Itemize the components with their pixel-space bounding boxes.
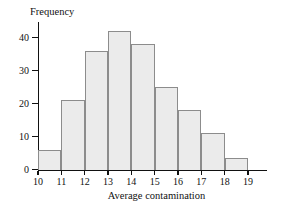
x-tick-label-11: 11 [49, 176, 73, 187]
x-tick-label-18: 18 [213, 176, 237, 187]
histogram-figure: Frequency 010203040 10111213141516171819… [0, 0, 297, 212]
x-axis-label-text: Average contamination [108, 190, 205, 201]
y-tick-label-10: 10 [0, 132, 29, 142]
x-tick-label-19: 19 [236, 176, 260, 187]
x-tick-label-15: 15 [143, 176, 167, 187]
x-tick-12 [84, 171, 85, 175]
y-tick-10 [32, 136, 38, 137]
x-tick-label-17: 17 [189, 176, 213, 187]
bar-15-16 [155, 87, 178, 170]
x-tick-label-10: 10 [26, 176, 50, 187]
x-tick-18 [224, 171, 225, 175]
bar-11-12 [61, 100, 84, 169]
bar-17-18 [201, 133, 224, 169]
y-tick-label-0: 0 [0, 165, 29, 175]
x-tick-label-16: 16 [166, 176, 190, 187]
x-tick-10 [37, 171, 38, 175]
y-tick-20 [32, 103, 38, 104]
x-axis-label: Average contamination [0, 190, 297, 202]
bar-14-15 [131, 44, 154, 169]
y-tick-40 [32, 37, 38, 38]
x-tick-label-13: 13 [96, 176, 120, 187]
x-tick-19 [247, 171, 248, 175]
y-tick-label-30: 30 [0, 66, 29, 76]
bar-13-14 [108, 31, 131, 170]
x-tick-label-12: 12 [73, 176, 97, 187]
x-tick-17 [201, 171, 202, 175]
x-tick-15 [154, 171, 155, 175]
bar-16-17 [178, 110, 201, 169]
x-tick-16 [177, 171, 178, 175]
y-tick-label-40: 40 [0, 33, 29, 43]
x-tick-11 [61, 171, 62, 175]
plot-area: 010203040 10111213141516171819 [0, 0, 297, 212]
x-tick-14 [131, 171, 132, 175]
y-axis-line [38, 22, 39, 170]
x-tick-label-14: 14 [119, 176, 143, 187]
bar-12-13 [85, 51, 108, 170]
y-tick-30 [32, 70, 38, 71]
y-tick-label-20: 20 [0, 99, 29, 109]
x-tick-13 [107, 171, 108, 175]
x-axis-line [38, 170, 267, 171]
bar-10-11 [38, 150, 61, 170]
bar-18-19 [225, 158, 248, 170]
